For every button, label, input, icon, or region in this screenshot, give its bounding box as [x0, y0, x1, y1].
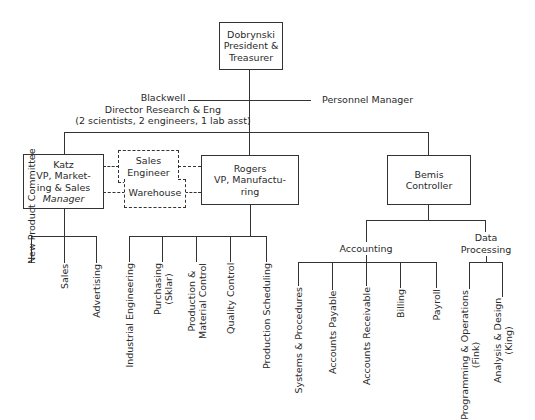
unit-accounts-receivable: Accounts Receivable: [361, 287, 372, 385]
unit-label: Production &: [186, 263, 197, 339]
unit-label: Billing: [395, 289, 406, 318]
unit-systems-procedures: Systems & Procedures: [293, 287, 304, 394]
marketing-vp-title-2: ing & Sales: [37, 182, 90, 194]
research-director-note: (2 scientists, 2 engineers, 1 lab asst): [38, 115, 288, 127]
research-director-name: Blackwell: [38, 92, 288, 104]
connector-accounting-child-4: [400, 262, 401, 288]
president-name: Dobrynski: [227, 29, 275, 41]
connector-accounting-up: [366, 220, 367, 242]
president-title-1: President &: [224, 40, 279, 52]
manufacturing-vp-title-2: ring: [241, 186, 260, 198]
unit-label: Analysis & Design: [492, 298, 503, 383]
connector-rogers-down: [250, 205, 251, 237]
manufacturing-vp-box: Rogers VP, Manufactu- ring: [201, 155, 299, 205]
accounting-label: Accounting: [336, 243, 396, 255]
unit-label: Accounts Payable: [327, 291, 338, 374]
connector-rogers-child-4: [230, 236, 231, 262]
president-box: Dobrynski President & Treasurer: [219, 22, 283, 70]
unit-production-scheduling: Production Scheduling: [261, 263, 272, 369]
connector-accounting-branch: [298, 262, 437, 263]
personnel-manager-label: Personnel Manager: [322, 94, 413, 106]
connector-dp-branch: [469, 262, 503, 263]
connector-bemis-down: [428, 205, 429, 221]
connector-dp-child-2: [502, 262, 503, 297]
unit-billing: Billing: [395, 289, 406, 318]
unit-sublabel: (Sklar): [163, 263, 174, 315]
connector-rogers-child-5: [266, 236, 267, 262]
president-title-2: Treasurer: [229, 52, 273, 64]
connector-rogers-child-3: [196, 236, 197, 262]
unit-payroll: Payroll: [431, 289, 442, 321]
unit-label: Industrial Engineering: [124, 263, 135, 368]
unit-label: Systems & Procedures: [293, 287, 304, 394]
connector-accounting-child-5: [436, 262, 437, 288]
unit-sublabel: (King): [503, 298, 514, 383]
manufacturing-vp-title-1: VP, Manufactu-: [214, 174, 286, 186]
org-chart: Dobrynski President & Treasurer Blackwel…: [0, 0, 535, 420]
connector-dp-up: [485, 220, 486, 232]
dashed-katz-warehouse: [103, 192, 125, 193]
sales-engineer-line-1: Sales: [136, 155, 161, 167]
manufacturing-vp-name: Rogers: [234, 163, 267, 175]
dashed-warehouse-rogers: [185, 192, 201, 193]
unit-production-material-control: Production & Material Control: [186, 263, 208, 339]
unit-sales: Sales: [59, 264, 70, 289]
data-processing-line-2: Processing: [456, 244, 516, 256]
connector-accounting-child-3: [366, 262, 367, 286]
connector-katz-down: [64, 208, 65, 237]
connector-accounting-child-1: [298, 262, 299, 286]
unit-label: Purchasing: [152, 263, 163, 315]
controller-title: Controller: [406, 180, 453, 192]
unit-industrial-engineering: Industrial Engineering: [124, 263, 135, 368]
unit-label: Payroll: [431, 289, 442, 321]
dashed-sales-engineer-rogers: [178, 166, 201, 167]
data-processing-label: Data Processing: [456, 232, 516, 255]
warehouse-label: Warehouse: [129, 187, 182, 199]
data-processing-line-1: Data: [456, 232, 516, 244]
connector-rogers-child-2: [162, 236, 163, 262]
marketing-vp-title-1: VP, Market-: [36, 170, 90, 182]
research-director-title: Director Research & Eng: [38, 104, 288, 116]
connector-rogers-child-1: [129, 236, 130, 262]
connector-accounting-child-2: [332, 262, 333, 290]
unit-accounts-payable: Accounts Payable: [327, 291, 338, 374]
marketing-vp-name: Katz: [53, 159, 74, 171]
connector-katz-up: [64, 132, 65, 155]
unit-label: Quality Control: [225, 263, 236, 334]
unit-label: Accounts Receivable: [361, 287, 372, 385]
unit-quality-control: Quality Control: [225, 263, 236, 334]
unit-label: Production Scheduling: [261, 263, 272, 369]
connector-rogers-branch: [129, 236, 267, 237]
connector-dp-child-1: [469, 262, 470, 289]
unit-advertising: Advertising: [91, 264, 102, 318]
connector-bemis-branch: [366, 220, 486, 221]
connector-katz-child-2: [64, 236, 65, 263]
controller-name: Bemis: [414, 169, 443, 181]
unit-programming-operations: Programming & Operations (Fink): [459, 290, 481, 420]
unit-label: Programming & Operations: [459, 290, 470, 420]
unit-label: Advertising: [91, 264, 102, 318]
connector-vp-horizontal: [64, 132, 429, 133]
marketing-vp-title-3: Manager: [43, 193, 85, 205]
connector-katz-child-3: [96, 236, 97, 263]
sales-engineer-line-2: Engineer: [127, 167, 169, 179]
controller-box: Bemis Controller: [387, 155, 471, 205]
unit-label: Sales: [59, 264, 70, 289]
unit-purchasing: Purchasing (Sklar): [152, 263, 174, 315]
unit-sublabel: (Fink): [470, 290, 481, 420]
connector-bemis-up: [428, 132, 429, 155]
unit-sublabel: Material Control: [197, 263, 208, 339]
dashed-katz-sales-engineer: [103, 166, 119, 167]
warehouse-top-edge: [178, 179, 186, 180]
unit-analysis-design: Analysis & Design (King): [492, 298, 514, 383]
warehouse-box: Warehouse: [124, 179, 186, 208]
